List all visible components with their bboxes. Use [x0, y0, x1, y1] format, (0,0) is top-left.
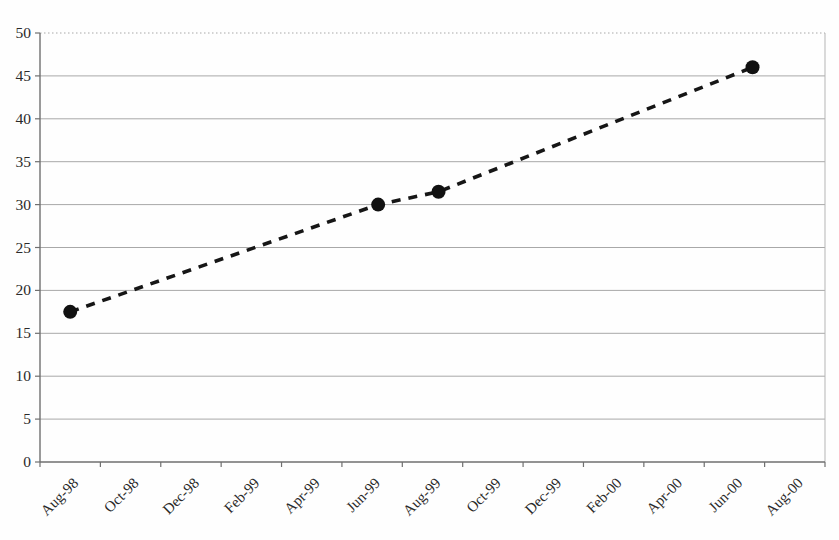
x-tick-label: Jun-99 [343, 475, 383, 515]
line-chart-figure: 05101520253035404550Aug-98Oct-98Dec-98Fe… [0, 0, 839, 540]
x-tick-label: Apr-00 [643, 475, 685, 517]
x-tick-label: Aug-00 [762, 475, 806, 519]
y-tick-label: 30 [16, 196, 32, 213]
y-tick-label: 10 [16, 367, 32, 384]
y-tick-label: 0 [23, 453, 31, 470]
y-tick-label: 5 [23, 410, 31, 427]
y-tick-label: 20 [16, 281, 32, 298]
trend-dashed-line [70, 67, 752, 312]
x-tick-label: Jun-00 [705, 475, 745, 515]
x-tick-label: Dec-98 [160, 475, 203, 518]
y-tick-label: 35 [16, 153, 32, 170]
x-tick-label: Feb-00 [583, 475, 624, 516]
x-tick-label: Dec-99 [522, 475, 565, 518]
y-tick-label: 25 [16, 239, 32, 256]
data-point-marker [432, 185, 446, 199]
data-point-marker [371, 198, 385, 212]
y-tick-label: 15 [16, 324, 32, 341]
x-tick-label: Aug-99 [400, 475, 444, 519]
y-tick-label: 45 [16, 67, 32, 84]
x-tick-label: Aug-98 [38, 475, 82, 519]
x-tick-label: Oct-99 [463, 475, 504, 516]
data-point-marker [63, 305, 77, 319]
y-tick-label: 50 [16, 24, 32, 41]
line-chart: 05101520253035404550Aug-98Oct-98Dec-98Fe… [0, 0, 839, 540]
x-tick-label: Feb-99 [221, 475, 262, 516]
y-tick-label: 40 [16, 110, 32, 127]
x-tick-label: Oct-98 [101, 475, 142, 516]
data-point-marker [746, 60, 760, 74]
x-tick-label: Apr-99 [281, 475, 323, 517]
